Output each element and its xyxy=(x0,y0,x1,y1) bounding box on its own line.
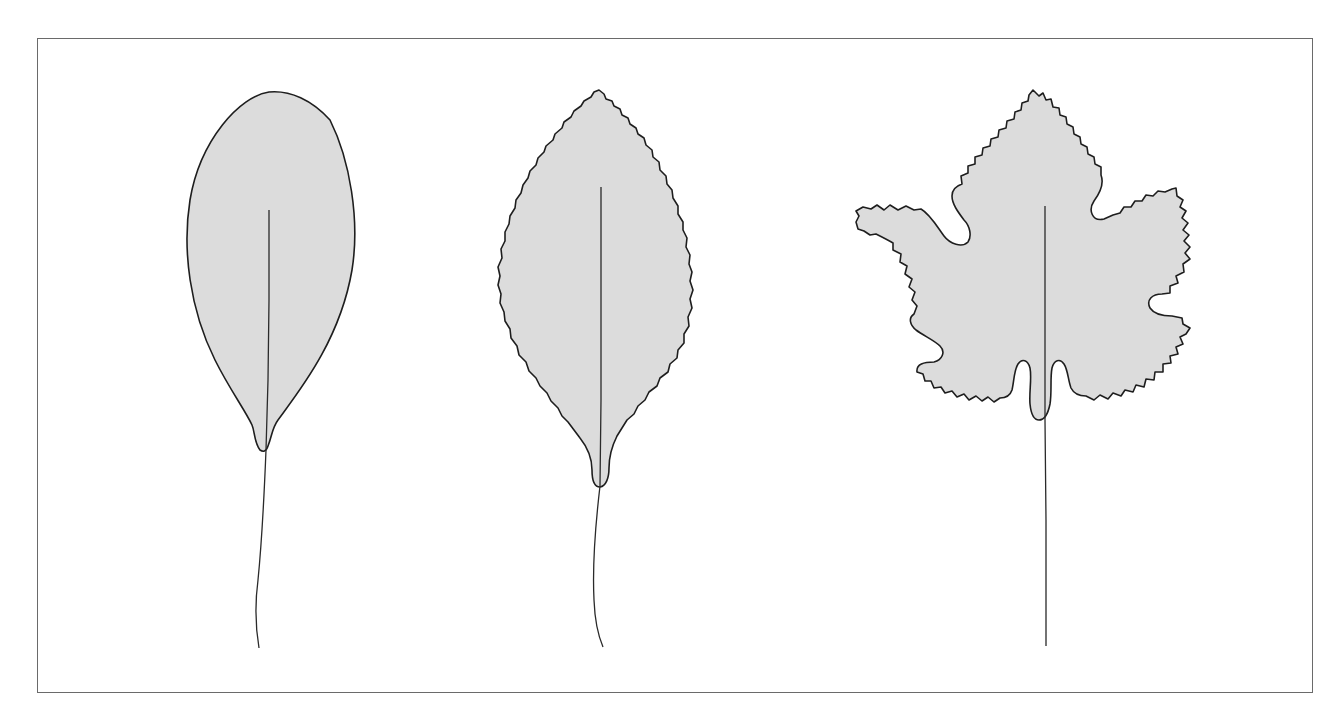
leaf-2-serrate xyxy=(498,90,693,647)
leaf-figure xyxy=(0,0,1338,725)
leaf-2-petiole xyxy=(593,486,603,647)
leaf-1-entire xyxy=(187,92,355,648)
leaf-3-petiole xyxy=(1045,420,1046,646)
leaf-3-lobed xyxy=(856,90,1190,646)
leaf-1-petiole xyxy=(256,450,266,648)
leaf-3-outline xyxy=(856,90,1190,420)
leaf-1-blade xyxy=(187,92,355,451)
leaf-2-blade xyxy=(498,90,693,487)
